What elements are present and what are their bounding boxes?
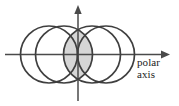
polar-axis-label: polar axis [137,57,179,80]
vertical-axis-arrowhead [74,5,81,14]
polar-axis-label-line2: axis [137,69,179,81]
polar-plot-canvas [0,0,179,106]
polar-circles-figure: polar axis [0,0,179,106]
polar-axis-label-line1: polar [137,57,179,69]
